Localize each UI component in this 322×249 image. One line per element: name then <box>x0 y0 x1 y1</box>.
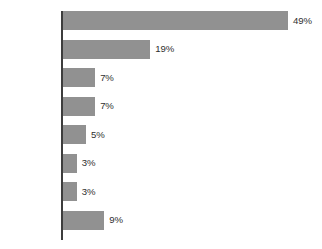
bar-rect <box>63 40 150 59</box>
bar-value-label: 19% <box>155 44 174 55</box>
bar-rect <box>63 11 288 30</box>
bar-value-label: 7% <box>100 101 114 112</box>
bar-rect <box>63 97 95 116</box>
bar-rect <box>63 211 104 230</box>
bar-rect <box>63 154 77 173</box>
bar-value-label: 9% <box>109 215 123 226</box>
bar-rect <box>63 68 95 87</box>
bar-value-label: 3% <box>82 186 96 197</box>
bar-value-label: 3% <box>82 158 96 169</box>
bar-value-label: 49% <box>293 15 312 26</box>
bar-rect <box>63 182 77 201</box>
bar-value-label: 7% <box>100 72 114 83</box>
bar-value-label: 5% <box>91 129 105 140</box>
bar-chart: English 49% African 19% Scottish 7% Germ… <box>0 0 322 249</box>
plot-area: English 49% African 19% Scottish 7% Germ… <box>0 0 322 249</box>
bar-rect <box>63 125 86 144</box>
